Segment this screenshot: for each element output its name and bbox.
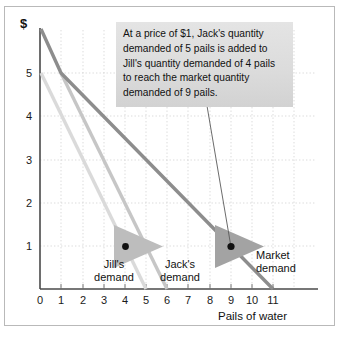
x-tick-2: 2 [75,295,91,306]
x-tick-10: 10 [244,295,260,306]
x-tick-6: 6 [159,295,175,306]
jill-demand-label: Jill's demand [86,258,142,285]
jill-quantity-point [122,243,129,250]
jill-demand-label-line2: demand [86,271,142,284]
y-tick-3: 3 [16,155,32,166]
x-axis-title: Pails of water [218,310,287,322]
annotation-callout: At a price of $1, Jack's quantity demand… [116,22,293,107]
market-demand-label-line1: Market [256,249,318,262]
y-tick-1: 1 [16,241,32,252]
x-tick-5: 5 [138,295,154,306]
y-axis-title: $ [20,16,27,31]
x-tick-1: 1 [53,295,69,306]
x-tick-4: 4 [117,295,133,306]
jill-demand-label-line1: Jill's [86,258,142,271]
jack-demand-label: Jack's demand [152,258,208,285]
market-demand-label-line2: demand [256,262,318,275]
x-tick-11: 11 [265,295,281,306]
market-demand-label: Market demand [256,249,318,276]
jack-demand-label-line1: Jack's [152,258,208,271]
jack-demand-label-line2: demand [152,271,208,284]
x-tick-0: 0 [32,295,48,306]
demand-curve-figure: $ 5 4 3 2 1 0 1 2 3 4 5 6 7 8 9 10 11 Pa… [0,0,342,341]
x-tick-3: 3 [96,295,112,306]
x-tick-7: 7 [180,295,196,306]
annotation-callout-text: At a price of $1, Jack's quantity demand… [123,27,286,101]
x-tick-8: 8 [202,295,218,306]
market-quantity-point [227,243,234,250]
y-tick-2: 2 [16,198,32,209]
y-tick-5: 5 [16,68,32,79]
x-tick-9: 9 [223,295,239,306]
y-tick-4: 4 [16,111,32,122]
